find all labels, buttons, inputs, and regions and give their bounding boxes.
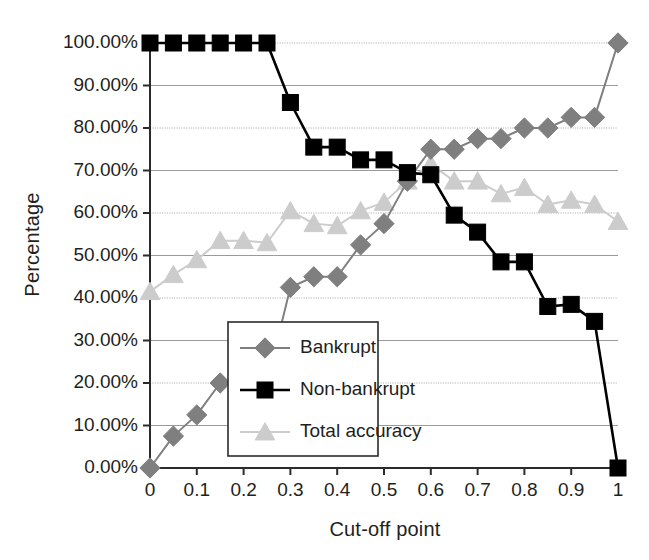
- y-tick-label: 50.00%: [0, 244, 138, 266]
- data-point-marker: [165, 35, 181, 51]
- data-point-marker: [491, 128, 511, 148]
- data-point-marker: [212, 35, 228, 51]
- data-point-marker: [563, 296, 579, 312]
- data-point-marker: [608, 212, 628, 229]
- data-point-marker: [306, 139, 322, 155]
- chart-figure: Percentage Cut-off point 0.00%10.00%20.0…: [0, 0, 649, 560]
- y-tick-label: 80.00%: [0, 116, 138, 138]
- y-tick-label: 20.00%: [0, 371, 138, 393]
- data-point-marker: [140, 282, 160, 299]
- legend-label: Non-bankrupt: [300, 378, 415, 400]
- y-tick-label: 60.00%: [0, 201, 138, 223]
- data-point-marker: [587, 313, 603, 329]
- y-tick-label: 90.00%: [0, 74, 138, 96]
- data-point-marker: [236, 35, 252, 51]
- data-point-marker: [610, 460, 626, 476]
- data-point-marker: [561, 107, 581, 127]
- data-point-marker: [516, 254, 532, 270]
- data-point-marker: [561, 191, 581, 208]
- y-tick-label: 30.00%: [0, 329, 138, 351]
- y-tick-label: 100.00%: [0, 31, 138, 53]
- legend-label: Bankrupt: [300, 336, 376, 358]
- data-point-marker: [540, 299, 556, 315]
- data-point-marker: [421, 139, 441, 159]
- data-point-marker: [351, 202, 371, 219]
- data-point-marker: [538, 118, 558, 138]
- data-point-marker: [304, 214, 324, 231]
- data-point-marker: [329, 139, 345, 155]
- data-point-marker: [280, 277, 300, 297]
- data-point-marker: [446, 207, 462, 223]
- data-point-marker: [399, 165, 415, 181]
- data-point-marker: [423, 167, 439, 183]
- data-point-marker: [304, 267, 324, 287]
- legend-swatch-marker: [257, 382, 273, 398]
- data-point-marker: [444, 139, 464, 159]
- legend-label: Total accuracy: [300, 420, 421, 442]
- data-point-marker: [142, 35, 158, 51]
- y-tick-label: 0.00%: [0, 456, 138, 478]
- data-point-marker: [281, 202, 301, 219]
- data-point-marker: [164, 265, 184, 282]
- data-point-marker: [470, 224, 486, 240]
- data-point-marker: [376, 152, 392, 168]
- x-tick-label: 1: [588, 479, 648, 501]
- data-point-marker: [584, 107, 604, 127]
- data-point-marker: [493, 254, 509, 270]
- axis-lines: [143, 42, 618, 475]
- data-point-marker: [467, 128, 487, 148]
- y-tick-label: 10.00%: [0, 414, 138, 436]
- data-point-marker: [259, 35, 275, 51]
- data-point-marker: [327, 267, 347, 287]
- y-tick-label: 40.00%: [0, 286, 138, 308]
- data-point-marker: [140, 458, 160, 478]
- data-point-marker: [514, 118, 534, 138]
- data-point-marker: [515, 178, 535, 195]
- data-point-marker: [282, 95, 298, 111]
- data-point-marker: [353, 152, 369, 168]
- x-axis-title: Cut-off point: [150, 518, 620, 541]
- data-point-marker: [491, 185, 511, 202]
- y-tick-label: 70.00%: [0, 159, 138, 181]
- data-point-marker: [189, 35, 205, 51]
- data-point-marker: [608, 33, 628, 53]
